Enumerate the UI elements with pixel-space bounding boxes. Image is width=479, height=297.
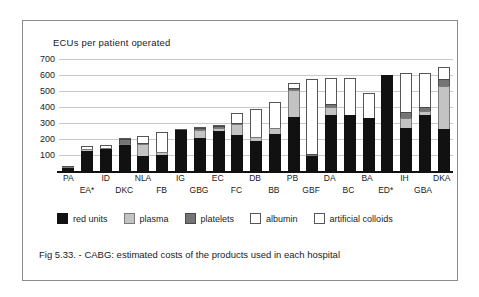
bar-slot (78, 59, 97, 171)
legend-label-albumin: albumin (266, 214, 298, 224)
chart-title: ECUs per patient operated (53, 37, 170, 48)
bar-slot (265, 59, 284, 171)
bar-slot (284, 59, 303, 171)
x-axis-label-DA: DA (320, 173, 339, 183)
legend-item-colloids[interactable]: artificial colloids (314, 213, 393, 224)
y-axis-tick-500: 500 (40, 87, 55, 96)
bar-segment-albumin (231, 113, 243, 123)
x-axis-label-EDstar: ED* (376, 185, 395, 195)
bar-slot (247, 59, 266, 171)
bar-slot (134, 59, 153, 171)
x-label-row-lower: EA*DKCFBGBGFCBBGBFBCED*GBA (59, 185, 451, 195)
x-axis-label-GBA: GBA (414, 185, 433, 195)
stacked-bar-IH[interactable] (400, 73, 412, 171)
bar-segment-plasma (137, 144, 149, 156)
bar-segment-red (400, 128, 412, 171)
bar-slot (340, 59, 359, 171)
bar-series-group (59, 59, 453, 171)
legend-item-plasma[interactable]: plasma (124, 213, 169, 224)
bar-segment-red (137, 156, 149, 171)
stacked-bar-NLA[interactable] (137, 136, 149, 171)
x-axis-label-IG: IG (171, 173, 190, 183)
x-axis-label-GBF: GBF (302, 185, 321, 195)
legend-item-red[interactable]: red units (57, 213, 108, 224)
bar-segment-albumin (419, 73, 431, 107)
bar-segment-albumin (438, 67, 450, 79)
x-axis-label-spacer (227, 173, 246, 183)
bar-segment-plasma (231, 124, 243, 135)
bar-segment-red (325, 115, 337, 171)
stacked-bar-DB[interactable] (250, 109, 262, 171)
bar-segment-albumin (400, 73, 412, 112)
legend-item-albumin[interactable]: albumin (250, 213, 298, 224)
x-axis-label-spacer (264, 173, 283, 183)
x-axis-label-spacer (339, 173, 358, 183)
stacked-bar-GBA[interactable] (419, 73, 431, 171)
stacked-bar-DA[interactable] (325, 78, 337, 171)
stacked-bar-EC[interactable] (213, 125, 225, 171)
legend-swatch-platelets-icon (185, 213, 196, 224)
stacked-bar-BB[interactable] (269, 102, 281, 171)
legend-swatch-albumin-icon (250, 213, 261, 224)
stacked-bar-BA[interactable] (363, 93, 375, 171)
x-axis-label-spacer (59, 185, 78, 195)
bar-slot (97, 59, 116, 171)
x-axis-label-spacer (302, 173, 321, 183)
bar-slot (378, 59, 397, 171)
legend-swatch-colloids-icon (314, 213, 325, 224)
stacked-bar-EAstar[interactable] (81, 146, 93, 171)
bar-segment-albumin (156, 132, 168, 152)
bar-slot (397, 59, 416, 171)
stacked-bar-EDstar[interactable] (381, 75, 393, 171)
x-axis-label-FC: FC (227, 185, 246, 195)
bar-segment-plasma (400, 118, 412, 128)
bar-segment-plasma (194, 130, 206, 138)
x-axis-label-spacer (152, 173, 171, 183)
legend-label-colloids: artificial colloids (330, 214, 393, 224)
stacked-bar-FB[interactable] (156, 132, 168, 171)
bar-slot (190, 59, 209, 171)
bar-slot (153, 59, 172, 171)
bar-segment-red (81, 151, 93, 171)
legend-item-platelets[interactable]: platelets (185, 213, 235, 224)
stacked-bar-ID[interactable] (100, 145, 112, 171)
stacked-bar-FC[interactable] (231, 113, 243, 171)
x-axis-label-spacer (134, 185, 153, 195)
x-axis-label-DB: DB (246, 173, 265, 183)
bar-segment-red (381, 75, 393, 171)
bar-segment-red (156, 155, 168, 171)
bar-segment-albumin (306, 79, 318, 154)
x-axis-label-BC: BC (339, 185, 358, 195)
stacked-bar-IG[interactable] (175, 129, 187, 171)
bar-slot (322, 59, 341, 171)
x-axis-label-EAstar: EA* (78, 185, 97, 195)
x-axis-label-NLA: NLA (134, 173, 153, 183)
bar-segment-red (250, 141, 262, 171)
bar-segment-red (213, 131, 225, 171)
bar-segment-plasma (288, 90, 300, 117)
x-axis-label-spacer (171, 185, 190, 195)
bar-slot (209, 59, 228, 171)
stacked-bar-BC[interactable] (344, 78, 356, 171)
bar-slot (303, 59, 322, 171)
stacked-bar-PB[interactable] (288, 83, 300, 171)
bar-slot (416, 59, 435, 171)
bar-segment-plasma (325, 107, 337, 115)
y-axis-tick-300: 300 (40, 119, 55, 128)
figure-frame: ECUs per patient operated 70060050040030… (22, 20, 458, 281)
y-axis-tick-200: 200 (40, 135, 55, 144)
x-axis-label-DKC: DKC (115, 185, 134, 195)
figure-caption: Fig 5.33. - CABG: estimated costs of the… (39, 249, 449, 260)
stacked-bar-DKA[interactable] (438, 67, 450, 171)
x-axis-label-spacer (78, 173, 97, 183)
bar-segment-red (288, 117, 300, 171)
x-axis-label-spacer (190, 173, 209, 183)
x-axis-labels: PAIDNLAIGECDBPBDABAIHDKA EA*DKCFBGBGFCBB… (59, 173, 451, 201)
stacked-bar-DKC[interactable] (119, 138, 131, 171)
stacked-bar-GBF[interactable] (306, 79, 318, 171)
bar-slot (115, 59, 134, 171)
legend-swatch-plasma-icon (124, 213, 135, 224)
x-axis-label-EC: EC (208, 173, 227, 183)
stacked-bar-GBG[interactable] (194, 127, 206, 171)
x-axis-label-spacer (209, 185, 228, 195)
